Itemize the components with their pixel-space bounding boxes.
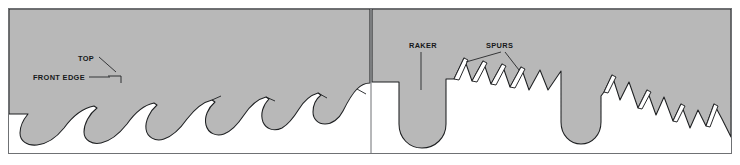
label-top: TOP [78, 54, 94, 63]
label-spurs: SPURS [486, 41, 513, 50]
label-front-edge: FRONT EDGE [33, 73, 85, 82]
label-raker: RAKER [409, 41, 437, 50]
diagram-canvas: TOP FRONT EDGE RAKER SPURS [0, 0, 740, 165]
saw-blade-tooth-diagram: TOP FRONT EDGE RAKER SPURS [0, 0, 740, 165]
